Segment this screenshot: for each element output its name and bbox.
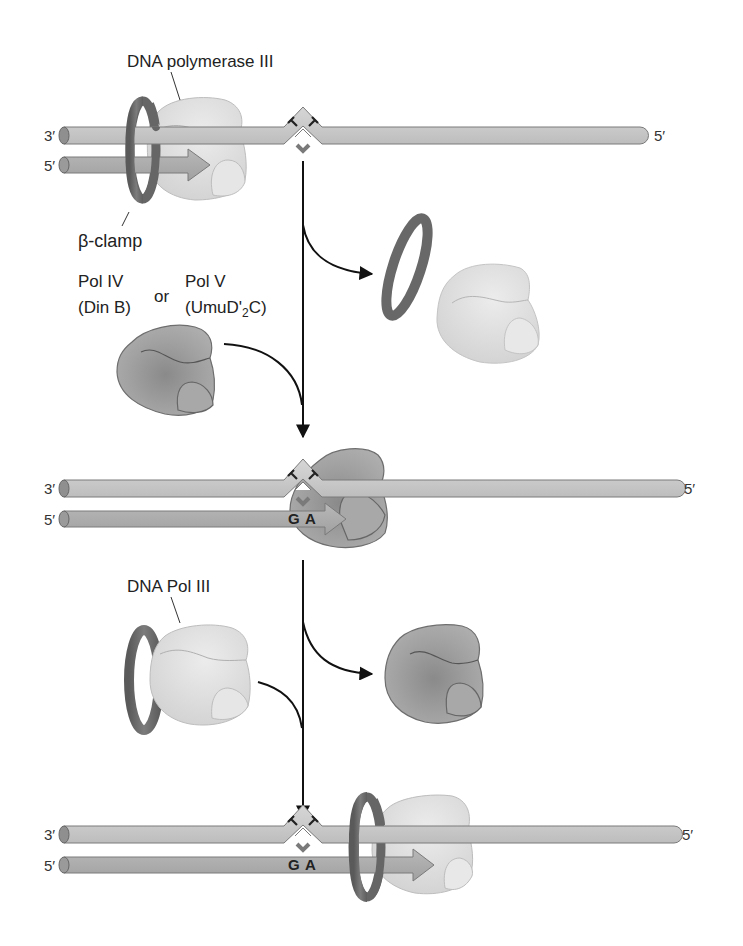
inserted-base-a: A [305, 510, 316, 527]
beta-clamp-label: β-clamp [78, 231, 142, 251]
umud-label: (UmuD'2C) [185, 298, 267, 320]
beta-clamp-icon [130, 101, 143, 199]
template-strand-3 [59, 805, 683, 843]
or-label: or [154, 287, 169, 306]
panel-2: G A 3′ 5′ 5′ [44, 449, 695, 548]
pol-v-label: Pol V [185, 272, 226, 291]
pol-iv-v-icon [117, 325, 214, 415]
template-3prime-label-3: 3′ [44, 826, 55, 843]
resumed-pol-iii-icon [372, 795, 473, 894]
beta-clamp-icon-3 [354, 797, 367, 897]
release-arrow-2 [303, 622, 372, 674]
dna-polymerase-iii-label: DNA polymerase III [127, 52, 273, 71]
released-pol-iii-icon [437, 264, 539, 363]
released-pol-iv-v-icon [385, 625, 483, 724]
primer-5prime-label-3: 5′ [44, 857, 55, 874]
dna-polymerase-iii-icon [147, 98, 246, 200]
primer-5prime-label: 5′ [44, 157, 55, 174]
join-arrow-1 [224, 344, 302, 405]
template-5prime-label-3: 5′ [682, 826, 693, 843]
inserted-base-a-3: A [305, 856, 316, 873]
diagram-canvas: 3′ 5′ 5′ DNA polymerase III β-clamp Pol … [0, 0, 743, 946]
panel-3: G A 3′ 5′ 5′ [44, 795, 693, 897]
template-3prime-label-2: 3′ [44, 480, 55, 497]
dna-pol-iii-with-clamp-icon [129, 625, 250, 730]
release-arrow-1 [303, 225, 372, 274]
inserted-base-g: G [288, 510, 300, 527]
panel-1: 3′ 5′ 5′ DNA polymerase III β-clamp [44, 52, 665, 251]
din-b-label: (Din B) [78, 298, 131, 317]
dna-pol-iii-label: DNA Pol III [127, 577, 210, 596]
join-arrow-2 [258, 682, 302, 728]
template-5prime-label: 5′ [654, 127, 665, 144]
released-beta-clamp-icon [378, 214, 436, 320]
lesion-chevron-icon-3 [297, 844, 309, 850]
primer-5prime-label-2: 5′ [44, 511, 55, 528]
lesion-chevron-icon [297, 145, 309, 151]
template-5prime-label-2: 5′ [684, 480, 695, 497]
pol-iv-label: Pol IV [78, 272, 124, 291]
inserted-base-g-3: G [288, 856, 300, 873]
template-3prime-label: 3′ [44, 127, 55, 144]
